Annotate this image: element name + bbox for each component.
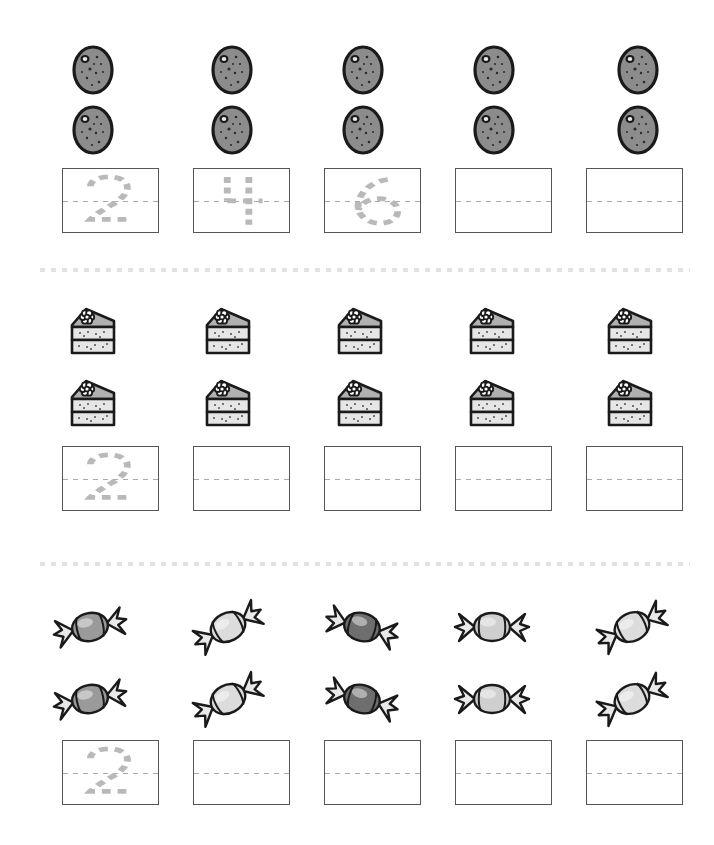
item-cell	[163, 296, 293, 366]
guide-midline	[456, 201, 551, 202]
number-trace-box[interactable]	[193, 168, 290, 233]
candy-icon	[453, 676, 531, 722]
number-trace-box[interactable]	[193, 446, 290, 511]
trace-box-row	[0, 446, 714, 512]
traced-numeral-6	[325, 169, 420, 232]
item-cell	[167, 95, 297, 165]
item-cell	[297, 664, 427, 734]
item-row	[0, 95, 714, 165]
worksheet-page	[0, 0, 714, 845]
candy-icon	[323, 676, 401, 722]
item-row	[0, 592, 714, 662]
item-row	[0, 664, 714, 734]
cookie-icon	[209, 104, 255, 156]
number-trace-box[interactable]	[324, 446, 421, 511]
item-cell	[565, 296, 695, 366]
number-trace-box[interactable]	[455, 740, 552, 805]
cookie-icon	[471, 104, 517, 156]
candy-icon	[189, 676, 267, 722]
item-cell	[163, 592, 293, 662]
cake-slice-icon	[197, 375, 259, 431]
cookie-icon	[70, 44, 116, 96]
number-trace-box[interactable]	[193, 740, 290, 805]
traced-numeral-2	[63, 741, 158, 804]
section-divider	[40, 562, 690, 566]
item-cell	[28, 296, 158, 366]
item-cell	[25, 592, 155, 662]
item-cell	[427, 592, 557, 662]
item-cell	[567, 664, 697, 734]
candy-icon	[593, 676, 671, 722]
item-cell	[297, 592, 427, 662]
item-cell	[565, 368, 695, 438]
cake-slice-icon	[62, 303, 124, 359]
traced-numeral-4	[194, 169, 289, 232]
item-cell	[567, 592, 697, 662]
cake-slice-icon	[599, 375, 661, 431]
cake-slice-icon	[329, 303, 391, 359]
number-trace-box[interactable]	[62, 740, 159, 805]
item-cell	[573, 95, 703, 165]
number-trace-box[interactable]	[586, 446, 683, 511]
candy-icon	[51, 604, 129, 650]
item-cell	[429, 95, 559, 165]
traced-numeral-2	[63, 447, 158, 510]
trace-box-row	[0, 168, 714, 234]
cookie-icon	[209, 44, 255, 96]
guide-midline	[194, 479, 289, 480]
guide-midline	[456, 773, 551, 774]
item-cell	[28, 368, 158, 438]
number-trace-box[interactable]	[62, 446, 159, 511]
guide-midline	[587, 479, 682, 480]
item-row	[0, 296, 714, 366]
item-cell	[298, 95, 428, 165]
number-trace-box[interactable]	[455, 168, 552, 233]
candy-icon	[323, 604, 401, 650]
guide-midline	[456, 479, 551, 480]
number-trace-box[interactable]	[586, 168, 683, 233]
candy-icon	[189, 604, 267, 650]
number-trace-box[interactable]	[586, 740, 683, 805]
item-cell	[25, 664, 155, 734]
traced-numeral-2	[63, 169, 158, 232]
candy-icon	[51, 676, 129, 722]
item-cell	[427, 368, 557, 438]
number-trace-box[interactable]	[324, 740, 421, 805]
number-trace-box[interactable]	[62, 168, 159, 233]
cookie-icon	[615, 104, 661, 156]
cake-slice-icon	[599, 303, 661, 359]
guide-midline	[194, 773, 289, 774]
item-row	[0, 368, 714, 438]
cake-slice-icon	[329, 375, 391, 431]
guide-midline	[325, 479, 420, 480]
guide-midline	[325, 773, 420, 774]
cake-slice-icon	[461, 375, 523, 431]
cake-slice-icon	[62, 375, 124, 431]
cookie-icon	[471, 44, 517, 96]
section-divider	[40, 268, 690, 272]
number-trace-box[interactable]	[455, 446, 552, 511]
item-cell	[295, 368, 425, 438]
guide-midline	[587, 773, 682, 774]
guide-midline	[587, 201, 682, 202]
cookie-icon	[70, 104, 116, 156]
cookie-icon	[340, 104, 386, 156]
item-cell	[163, 664, 293, 734]
number-trace-box[interactable]	[324, 168, 421, 233]
cake-slice-icon	[461, 303, 523, 359]
trace-box-row	[0, 740, 714, 806]
item-cell	[427, 664, 557, 734]
cookie-icon	[615, 44, 661, 96]
candy-icon	[593, 604, 671, 650]
candy-icon	[453, 604, 531, 650]
cake-slice-icon	[197, 303, 259, 359]
item-cell	[427, 296, 557, 366]
item-cell	[295, 296, 425, 366]
item-cell	[28, 95, 158, 165]
item-cell	[163, 368, 293, 438]
cookie-icon	[340, 44, 386, 96]
